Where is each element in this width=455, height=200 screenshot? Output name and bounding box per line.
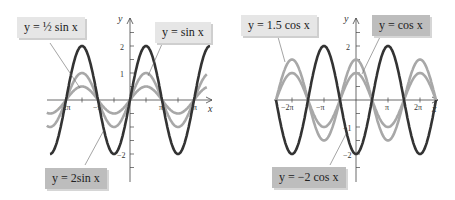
label-sin: y = sin x	[155, 22, 211, 43]
left-ytick-neg2: −2	[117, 151, 126, 160]
leader-two-sin	[85, 130, 104, 165]
right-xtick-negpi: −π	[316, 103, 325, 112]
label-cos: y = cos x	[372, 15, 430, 36]
label-half-sin: y = ½ sin x	[17, 17, 85, 38]
left-ytick-2: 2	[120, 43, 124, 52]
label-one-five-cos: y = 1.5 cos x	[241, 15, 317, 36]
leader-half-sin	[50, 43, 80, 88]
label-neg-two-cos: y = −2 cos x	[272, 167, 346, 188]
right-xtick-pi: π	[385, 103, 389, 112]
left-x-axis-label: x	[207, 103, 213, 114]
left-ytick-1: 1	[120, 70, 124, 79]
left-y-axis-label: y	[117, 13, 123, 24]
right-xtick-neg2pi: −2π	[281, 103, 294, 112]
right-xtick-2pi: 2π	[414, 103, 422, 112]
right-ytick-2: 2	[346, 43, 350, 52]
leader-neg-two-cos	[330, 134, 346, 165]
right-ytick-neg2: −2	[343, 151, 352, 160]
leader-one-five-cos	[278, 37, 285, 62]
right-y-axis-label: y	[343, 13, 349, 24]
label-two-sin: y = 2sin x	[45, 168, 107, 189]
right-graph: x y −2π −π π 2π 2 −1 −2	[274, 13, 438, 182]
